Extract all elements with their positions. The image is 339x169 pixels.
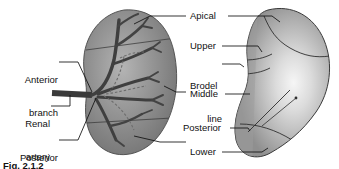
label-apical: Apical: [190, 10, 216, 21]
leader-brodel-right: [222, 64, 244, 67]
left-kidney-vascular: [52, 10, 177, 155]
middle-pointer-dot: [295, 97, 298, 100]
label-upper: Upper: [190, 40, 216, 51]
label-posterior: Posterior: [183, 122, 221, 133]
label-anterior-branch-line1: Anterior: [2, 74, 58, 85]
kidney-segments-figure: Anterior branch Renal artery Posterior b…: [0, 0, 339, 169]
label-middle: Middle: [190, 88, 218, 99]
label-renal-artery-line1: Renal: [2, 118, 50, 129]
renal-artery-trunk: [52, 93, 92, 95]
right-kidney-segments: [232, 0, 330, 169]
label-lower: Lower: [190, 146, 216, 157]
figure-caption: Fig. 2.1.2: [3, 160, 44, 169]
